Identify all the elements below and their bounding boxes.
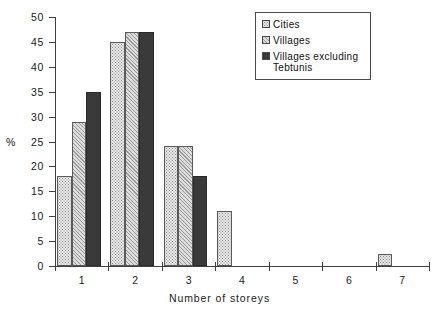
x-tick-label: 6: [334, 275, 364, 286]
x-tick: [55, 262, 56, 271]
bar: [72, 122, 87, 266]
bar: [86, 92, 101, 266]
x-tick: [429, 262, 430, 271]
y-tick-label: 5: [10, 236, 44, 246]
y-tick-label: 20: [10, 161, 44, 171]
x-tick-label: 3: [174, 275, 204, 286]
x-axis-line: [55, 266, 429, 267]
bar: [125, 32, 140, 266]
y-tick-label: 40: [10, 62, 44, 72]
x-tick: [215, 262, 216, 271]
y-tick-label: 0: [10, 261, 44, 271]
x-tick: [376, 262, 377, 271]
y-axis-unit-label: %: [6, 137, 20, 147]
x-tick-label: 5: [280, 275, 310, 286]
legend-item-cities: Cities: [262, 19, 365, 30]
x-tick: [162, 262, 163, 271]
x-tick: [108, 262, 109, 271]
legend-label-cities: Cities: [273, 19, 300, 30]
bar: [378, 254, 393, 266]
plot-area: [55, 17, 429, 266]
y-tick-label: 45: [10, 37, 44, 47]
legend-swatch-villages-icon: [262, 36, 270, 44]
bar: [57, 176, 72, 266]
legend-label-villages: Villages: [273, 35, 310, 46]
chart-legend: Cities Villages Villages excluding Tebtu…: [255, 12, 371, 80]
legend-item-villages-excluding-tebtunis: Villages excluding Tebtunis: [262, 51, 365, 73]
x-tick-label: 2: [120, 275, 150, 286]
bar: [110, 42, 125, 266]
bar-chart: 05101520253035404550 % 1234567 Number of…: [0, 0, 439, 316]
x-tick-label: 1: [67, 275, 97, 286]
y-tick-label: 10: [10, 211, 44, 221]
bar: [164, 146, 179, 266]
legend-item-villages: Villages: [262, 35, 365, 46]
y-tick-label: 30: [10, 112, 44, 122]
x-tick: [322, 262, 323, 271]
bar: [178, 146, 193, 266]
x-axis-title: Number of storeys: [0, 292, 439, 304]
legend-swatch-villages-excluding-icon: [262, 52, 270, 60]
y-tick-label: 15: [10, 186, 44, 196]
x-tick-label: 4: [227, 275, 257, 286]
legend-swatch-cities-icon: [262, 20, 270, 28]
legend-label-villages-excluding-tebtunis: Villages excluding Tebtunis: [273, 51, 358, 73]
bar: [193, 176, 208, 266]
y-tick-label: 50: [10, 12, 44, 22]
x-tick: [269, 262, 270, 271]
x-tick-label: 7: [387, 275, 417, 286]
bar: [217, 211, 232, 266]
y-tick-label: 35: [10, 87, 44, 97]
bar: [139, 32, 154, 266]
